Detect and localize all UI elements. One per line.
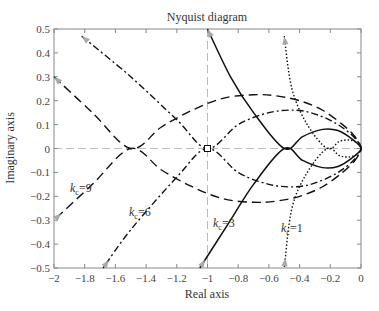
x-tick-label: −1 — [202, 272, 214, 284]
x-tick-label: −1.6 — [105, 272, 125, 284]
label-kc-3: kc=3 — [213, 216, 235, 232]
y-tick-label: −0.5 — [30, 262, 50, 274]
y-tick-label: 0.3 — [36, 71, 50, 83]
x-tick-label: −1.4 — [136, 272, 156, 284]
x-tick-label: 0 — [358, 272, 364, 284]
x-axis-label: Real axis — [185, 287, 230, 301]
y-tick-label: −0.1 — [30, 166, 50, 178]
x-tick-label: −0.4 — [290, 272, 310, 284]
y-axis-label: Imaginary axis — [3, 112, 17, 184]
label-kc-9: kc=9 — [70, 181, 92, 197]
critical-point-marker — [205, 146, 211, 152]
y-tick-label: 0.2 — [36, 95, 50, 107]
x-tick-label: −1.8 — [75, 272, 95, 284]
label-kc-6: kc=6 — [129, 205, 151, 221]
label-kc-1: kc=1 — [281, 221, 303, 237]
y-tick-label: 0.5 — [36, 23, 50, 35]
chart-title: Nyquist diagram — [167, 10, 248, 24]
y-tick-label: 0.1 — [36, 119, 50, 131]
y-tick-label: 0.4 — [36, 47, 50, 59]
y-tick-label: −0.3 — [30, 214, 50, 226]
x-tick-label: −0.8 — [228, 272, 248, 284]
x-tick-label: −0.6 — [259, 272, 279, 284]
y-tick-label: −0.4 — [30, 238, 50, 250]
y-tick-label: 0 — [45, 143, 51, 155]
x-tick-label: −0.2 — [320, 272, 340, 284]
y-tick-label: −0.2 — [30, 190, 50, 202]
nyquist-chart: Nyquist diagram −2−1.8−1.6−1.4−1.2−1−0.8… — [0, 0, 379, 311]
x-tick-label: −1.2 — [167, 272, 187, 284]
